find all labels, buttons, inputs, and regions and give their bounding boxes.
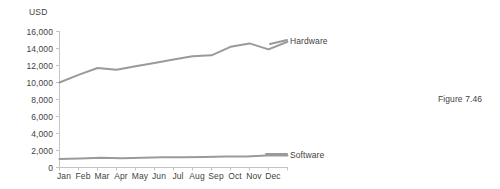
figure-caption: Figure 7.46 [438, 94, 482, 104]
series-label-leaders [266, 40, 287, 154]
series-line-hardware [60, 42, 288, 83]
y-axis-ticks [56, 32, 60, 168]
chart-series-group [60, 42, 288, 159]
y-tick-label-8000: 8,000 [19, 95, 53, 105]
y-tick-label-10000: 10,000 [19, 78, 53, 88]
series-label-hardware: Hardware [290, 36, 328, 46]
y-tick-label-6000: 6,000 [19, 112, 53, 122]
y-tick-label-16000: 16,000 [19, 27, 53, 37]
figure-container: USD 16,000 14,000 12,000 10,000 8,000 6,… [0, 0, 500, 189]
y-tick-label-14000: 14,000 [19, 44, 53, 54]
y-tick-label-4000: 4,000 [19, 129, 53, 139]
line-chart-plot [0, 0, 500, 189]
y-tick-label-2000: 2,000 [19, 146, 53, 156]
y-axis-title: USD [29, 7, 48, 17]
y-tick-label-0: 0 [19, 163, 53, 173]
series-line-software [60, 156, 288, 159]
y-tick-label-12000: 12,000 [19, 61, 53, 71]
series-label-software: Software [290, 150, 324, 160]
chart-axes [56, 31, 288, 171]
x-tick-label-dec: Dec [259, 171, 287, 181]
